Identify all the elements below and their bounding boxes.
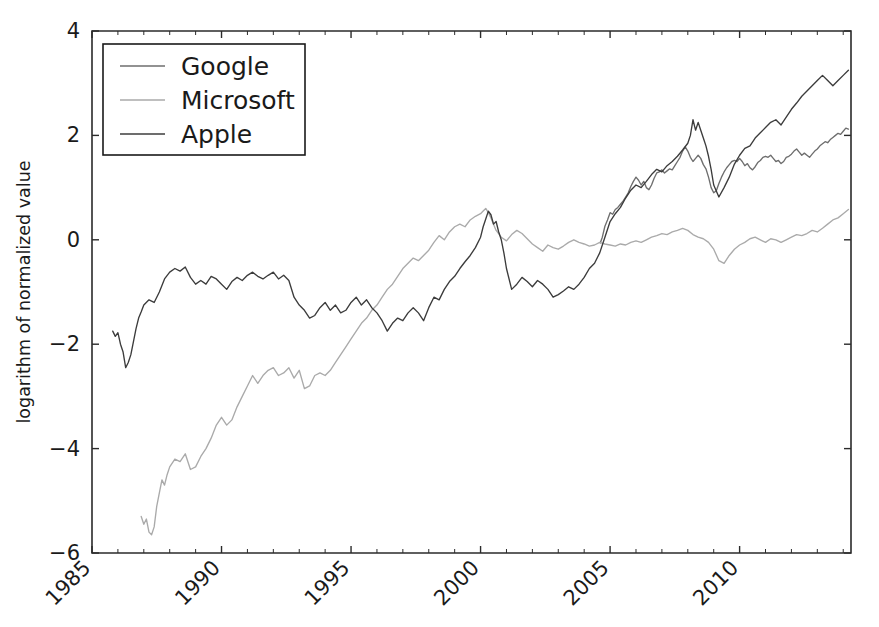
- x-tick-label: 2000: [429, 556, 484, 611]
- x-tick-label: 1995: [300, 556, 355, 611]
- series-line-microsoft: [141, 208, 848, 534]
- chart-legend[interactable]: GoogleMicrosoftApple: [103, 44, 305, 155]
- line-chart: −6−4−2024 198519901995200020052010 logar…: [0, 0, 879, 627]
- legend-label-google: Google: [181, 52, 269, 81]
- y-tick-labels: −6−4−2024: [49, 19, 80, 565]
- y-axis-title-text: logarithm of normalized value: [14, 160, 34, 423]
- y-tick-label: −2: [49, 332, 80, 356]
- y-tick-label: 0: [67, 228, 80, 252]
- x-tick-labels: 198519901995200020052010: [41, 556, 743, 611]
- y-tick-label: 4: [67, 19, 80, 43]
- x-tick-label: 2005: [559, 556, 614, 611]
- legend-label-microsoft: Microsoft: [181, 86, 295, 115]
- chart-figure: −6−4−2024 198519901995200020052010 logar…: [0, 0, 879, 627]
- y-tick-label: −4: [49, 437, 80, 461]
- legend-label-apple: Apple: [181, 120, 252, 149]
- y-tick-label: 2: [67, 123, 80, 147]
- x-tick-label: 2010: [688, 556, 743, 611]
- y-axis-title: logarithm of normalized value: [14, 160, 34, 423]
- x-tick-label: 1990: [170, 556, 225, 611]
